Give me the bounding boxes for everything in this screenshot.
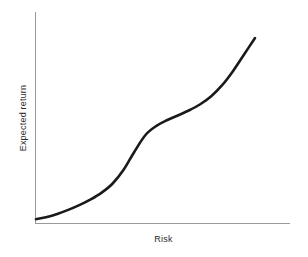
- chart-plot-area: [0, 0, 308, 257]
- chart-container: Expected return Risk: [0, 0, 308, 257]
- y-axis-label: Expected return: [18, 38, 28, 198]
- x-axis-label: Risk: [0, 234, 308, 244]
- data-series-line: [36, 38, 255, 219]
